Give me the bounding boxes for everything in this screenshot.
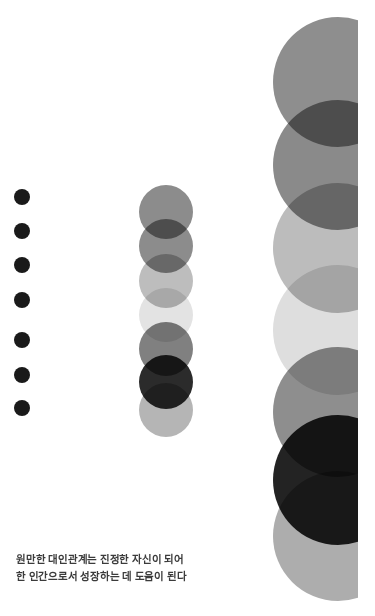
middle-circles-circle: [139, 355, 193, 409]
right-circle-column: [0, 0, 358, 616]
right-circles-circle: [273, 100, 358, 230]
right-circles-circle: [273, 265, 358, 395]
right-circles-circle: [273, 471, 358, 601]
left-dots-circle: [14, 367, 30, 383]
middle-circles-circle: [139, 254, 193, 308]
left-dots-circle: [14, 257, 30, 273]
poster-canvas: 원만한 대인관계는 진정한 자신이 되어 한 인간으로서 성장하는 데 도움이 …: [0, 0, 375, 616]
right-circles-circle: [273, 17, 358, 147]
left-dots-circle: [14, 332, 30, 348]
middle-circles-circle: [139, 322, 193, 376]
left-dots-circle: [14, 400, 30, 416]
middle-circles-circle: [139, 185, 193, 239]
middle-circles-circle: [139, 383, 193, 437]
left-dot-column: [0, 0, 375, 616]
middle-circle-column: [0, 0, 375, 616]
right-circles-circle: [273, 415, 358, 545]
right-circles-circle: [273, 183, 358, 313]
left-dots-circle: [14, 189, 30, 205]
caption-text: 원만한 대인관계는 진정한 자신이 되어 한 인간으로서 성장하는 데 도움이 …: [16, 551, 246, 585]
left-dots-circle: [14, 292, 30, 308]
middle-circles-circle: [139, 219, 193, 273]
right-circles-circle: [273, 347, 358, 477]
middle-circles-circle: [139, 288, 193, 342]
left-dots-circle: [14, 223, 30, 239]
